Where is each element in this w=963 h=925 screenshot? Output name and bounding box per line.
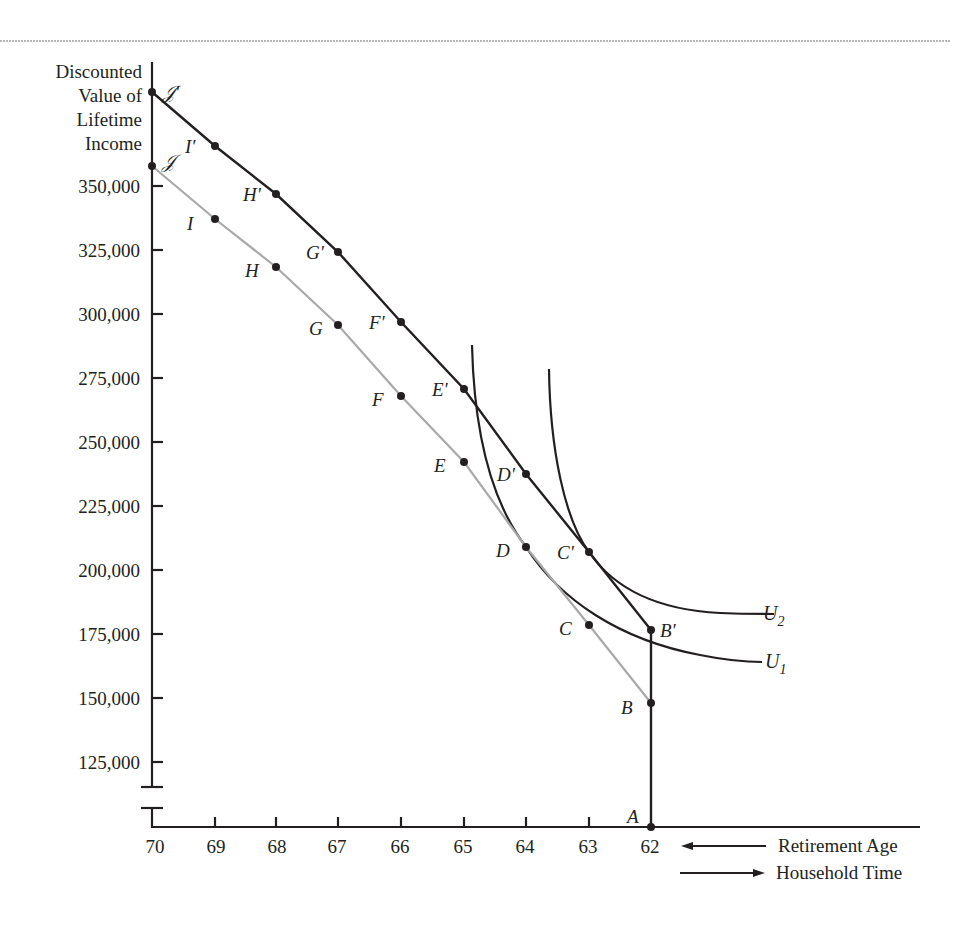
svg-text:G: G — [309, 318, 323, 339]
retirement-budget-chart: Discounted Value of Lifetime Income 350,… — [0, 0, 963, 925]
new-points — [148, 88, 655, 634]
point-e-prime — [460, 385, 468, 393]
point-f-prime — [397, 318, 405, 326]
original-point-labels: 𝒥 I H G F E D C B A — [161, 151, 639, 827]
svg-text:Lifetime: Lifetime — [77, 109, 142, 130]
x-tick-labels: 70 69 68 67 66 65 64 63 62 — [146, 836, 660, 857]
point-i — [211, 215, 219, 223]
svg-text:70: 70 — [146, 836, 165, 857]
indifference-curve-u2 — [549, 369, 774, 614]
svg-text:𝒥': 𝒥' — [161, 82, 182, 104]
y-axis — [141, 62, 163, 828]
original-points — [148, 162, 655, 831]
point-g — [334, 321, 342, 329]
svg-text:I: I — [186, 213, 195, 234]
point-h-prime — [272, 190, 280, 198]
svg-text:Household Time: Household Time — [776, 862, 902, 883]
svg-text:300,000: 300,000 — [78, 304, 140, 325]
svg-text:F': F' — [368, 312, 386, 333]
left-arrow-head-icon — [681, 842, 693, 850]
svg-text:Discounted: Discounted — [55, 61, 142, 82]
svg-text:325,000: 325,000 — [78, 240, 140, 261]
svg-text:Value of: Value of — [78, 85, 143, 106]
new-budget-line — [152, 92, 651, 630]
y-tick-labels: 350,000 325,000 300,000 275,000 250,000 … — [78, 176, 140, 773]
point-b-prime — [647, 626, 655, 634]
svg-text:Income: Income — [85, 133, 142, 154]
svg-text:𝒥: 𝒥 — [161, 151, 182, 173]
svg-text:I': I' — [184, 136, 196, 157]
point-e — [460, 458, 468, 466]
svg-text:225,000: 225,000 — [78, 496, 140, 517]
svg-text:65: 65 — [454, 836, 473, 857]
svg-text:B': B' — [660, 620, 677, 641]
svg-text:F: F — [371, 389, 384, 410]
svg-text:D': D' — [496, 464, 516, 485]
svg-text:350,000: 350,000 — [78, 176, 140, 197]
svg-text:Retirement Age: Retirement Age — [778, 835, 898, 856]
svg-text:A: A — [625, 806, 639, 827]
svg-text:E': E' — [431, 379, 449, 400]
svg-text:62: 62 — [641, 836, 660, 857]
svg-text:D: D — [495, 540, 510, 561]
point-f — [397, 392, 405, 400]
svg-text:G': G' — [306, 242, 325, 263]
svg-text:C': C' — [557, 542, 575, 563]
svg-text:275,000: 275,000 — [78, 368, 140, 389]
svg-text:125,000: 125,000 — [78, 752, 140, 773]
svg-text:63: 63 — [579, 836, 598, 857]
point-c-prime — [585, 548, 593, 556]
household-time-legend: Household Time — [680, 862, 902, 883]
u1-label: U1 — [765, 650, 786, 677]
right-arrow-head-icon — [753, 869, 765, 877]
point-g-prime — [334, 248, 342, 256]
point-h — [272, 263, 280, 271]
x-axis — [151, 817, 920, 827]
point-j — [148, 162, 156, 170]
indifference-curve-u1 — [472, 345, 762, 662]
u2-label: U2 — [763, 602, 784, 629]
point-b — [647, 699, 655, 707]
svg-text:H: H — [244, 260, 260, 281]
svg-text:C: C — [559, 618, 572, 639]
svg-text:175,000: 175,000 — [78, 624, 140, 645]
svg-text:E: E — [433, 455, 446, 476]
svg-text:68: 68 — [268, 836, 287, 857]
retirement-age-legend: Retirement Age — [681, 835, 898, 856]
svg-text:67: 67 — [328, 836, 347, 857]
point-j-prime — [148, 88, 156, 96]
svg-text:69: 69 — [207, 836, 226, 857]
y-axis-label: Discounted Value of Lifetime Income — [55, 61, 142, 154]
point-d-prime — [522, 470, 530, 478]
svg-text:66: 66 — [391, 836, 410, 857]
original-budget-line — [152, 166, 651, 703]
svg-text:H': H' — [242, 184, 262, 205]
svg-text:B: B — [621, 697, 633, 718]
point-i-prime — [211, 142, 219, 150]
svg-text:250,000: 250,000 — [78, 432, 140, 453]
svg-text:150,000: 150,000 — [78, 688, 140, 709]
point-d — [522, 543, 530, 551]
point-a — [647, 823, 655, 831]
point-c — [585, 621, 593, 629]
svg-text:200,000: 200,000 — [78, 560, 140, 581]
svg-text:64: 64 — [516, 836, 536, 857]
